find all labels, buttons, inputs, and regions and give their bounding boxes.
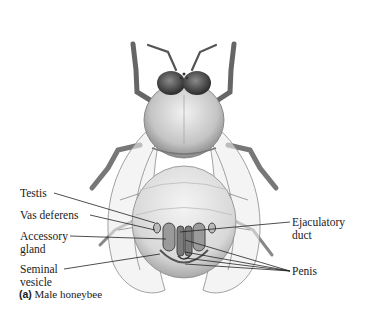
caption-panel: (a) xyxy=(19,288,32,300)
label-testis: Testis xyxy=(20,187,47,200)
right-eye xyxy=(183,71,211,95)
caption-text: Male honeybee xyxy=(35,288,103,300)
label-penis: Penis xyxy=(292,265,317,278)
label-ejaculatory-duct-1: Ejaculatory xyxy=(292,216,345,229)
left-eye xyxy=(157,71,185,95)
label-ejaculatory-duct-2: duct xyxy=(292,229,312,242)
antennae xyxy=(148,45,216,70)
label-seminal-vesicle-1: Seminal xyxy=(20,263,58,276)
label-vas-deferens: Vas deferens xyxy=(20,209,78,222)
label-accessory-gland-1: Accessory xyxy=(20,230,68,243)
label-accessory-gland-2: gland xyxy=(20,243,46,256)
figure-caption: (a) Male honeybee xyxy=(19,288,102,300)
